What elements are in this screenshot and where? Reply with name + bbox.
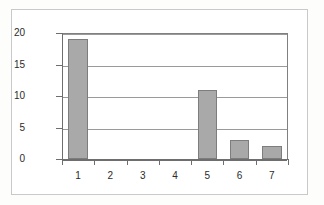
x-axis-label-5: 5 xyxy=(191,170,223,181)
x-axis-line xyxy=(56,159,289,160)
bar-slot-5 xyxy=(191,33,223,159)
x-axis-label-4: 4 xyxy=(159,170,191,181)
x-tick-3 xyxy=(159,160,160,165)
y-axis-label-15: 15 xyxy=(0,60,25,70)
x-tick-6 xyxy=(256,160,257,165)
x-tick-2 xyxy=(127,160,128,165)
x-axis-label-3: 3 xyxy=(127,170,159,181)
y-axis-label-20: 20 xyxy=(0,28,25,38)
x-axis-label-1: 1 xyxy=(62,170,94,181)
bar-category-7[interactable] xyxy=(262,146,281,159)
x-tick-5 xyxy=(223,160,224,165)
chart-page: 20 15 10 5 0 1 2 3 4 5 6 7 xyxy=(0,0,324,205)
y-axis-label-0: 0 xyxy=(0,154,25,164)
bar-slot-7 xyxy=(256,33,288,159)
bar-slot-4 xyxy=(159,33,191,159)
y-tick-10 xyxy=(56,96,62,97)
y-tick-5 xyxy=(56,128,62,129)
bar-category-1[interactable] xyxy=(68,39,87,159)
y-tick-15 xyxy=(56,65,62,66)
chart-frame: 20 15 10 5 0 1 2 3 4 5 6 7 xyxy=(11,9,308,195)
x-axis-label-6: 6 xyxy=(223,170,255,181)
x-axis-label-7: 7 xyxy=(256,170,288,181)
x-tick-1 xyxy=(94,160,95,165)
gridline-0 xyxy=(62,160,287,161)
y-tick-20 xyxy=(56,33,62,34)
x-tick-0 xyxy=(62,160,63,165)
bar-series xyxy=(62,33,288,159)
bar-slot-3 xyxy=(127,33,159,159)
x-tick-7 xyxy=(288,160,289,165)
x-tick-4 xyxy=(191,160,192,165)
bar-slot-1 xyxy=(62,33,94,159)
y-axis-line xyxy=(62,33,63,160)
y-axis-label-5: 5 xyxy=(0,123,25,133)
bar-category-5[interactable] xyxy=(198,90,217,159)
bar-slot-2 xyxy=(94,33,126,159)
bar-category-6[interactable] xyxy=(230,140,249,159)
y-axis-label-10: 10 xyxy=(0,91,25,101)
x-axis-label-2: 2 xyxy=(94,170,126,181)
bar-slot-6 xyxy=(223,33,255,159)
